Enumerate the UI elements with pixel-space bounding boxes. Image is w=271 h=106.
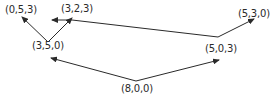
node-3-5-0: (3,5,0) bbox=[32, 40, 64, 51]
edge-503-to-323 bbox=[52, 20, 218, 37]
node-5-3-0: (5,3,0) bbox=[238, 8, 270, 19]
edge-800-to-350 bbox=[51, 58, 136, 81]
node-5-0-3: (5,0,3) bbox=[205, 43, 237, 54]
node-3-2-3: (3,2,3) bbox=[61, 3, 93, 14]
edge-800-to-503 bbox=[136, 60, 219, 81]
edge-350-to-053 bbox=[22, 17, 48, 42]
node-0-5-3: (0,5,3) bbox=[5, 4, 37, 15]
node-8-0-0: (8,0,0) bbox=[121, 83, 153, 94]
state-graph-diagram: (8,0,0) (3,5,0) (5,0,3) (0,5,3) (3,2,3) … bbox=[0, 0, 271, 106]
edge-350-to-323 bbox=[48, 18, 72, 42]
edge-503-to-530 bbox=[218, 19, 254, 37]
